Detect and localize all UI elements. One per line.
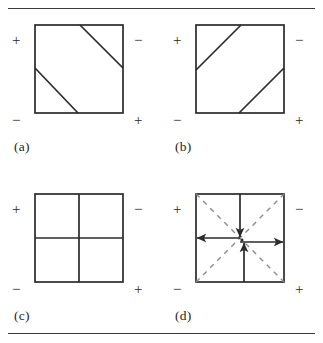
panel-b-lower-diagonal [239,68,284,113]
panel-a-sign-top-left: + [12,33,20,48]
panel-a-caption: (a) [14,139,30,155]
panel-a-sign-bottom-left: − [12,113,20,128]
panel-d-sign-bottom-left: − [173,282,181,297]
panel-c-sign-top-left: + [12,202,20,217]
panel-a-square [35,25,123,113]
panel-b-upper-diagonal [196,25,241,70]
panel-c: + − − + (c) [0,186,161,336]
panel-d-svg [188,186,292,290]
panel-a-sign-top-right: − [134,33,142,48]
panel-d: + − − + (d) [161,186,322,336]
panel-a-lower-diagonal [35,68,78,113]
panel-a-svg [27,17,131,121]
panel-b-diagram [188,17,292,121]
panel-b-square [196,25,284,113]
panel-b-svg [188,17,292,121]
panel-d-sign-bottom-right: + [295,282,303,297]
panel-b-sign-bottom-right: + [295,113,303,128]
panel-c-diagram [27,186,131,290]
panel-b: + − − + (b) [161,17,322,167]
top-horizontal-rule [8,8,315,9]
panel-b-sign-top-left: + [173,33,181,48]
panel-d-center-point [241,239,244,242]
panel-d-sign-top-right: − [295,202,303,217]
panel-a: + − − + (a) [0,17,161,167]
panel-b-sign-bottom-left: − [173,113,181,128]
panel-a-diagram [27,17,131,121]
panel-b-caption: (b) [175,139,191,155]
panel-c-sign-bottom-right: + [134,282,142,297]
panel-d-caption: (d) [175,308,191,324]
panel-c-svg [27,186,131,290]
panel-a-sign-bottom-right: + [134,113,142,128]
panel-a-upper-diagonal [80,25,123,68]
panel-d-sign-top-left: + [173,202,181,217]
panel-d-diagram [188,186,292,290]
panel-c-sign-bottom-left: − [12,282,20,297]
figure-container: + − − + (a) + − − + (b) + − − [0,0,323,343]
panel-b-sign-top-right: − [295,33,303,48]
panel-c-sign-top-right: − [134,202,142,217]
panel-c-caption: (c) [14,308,30,324]
